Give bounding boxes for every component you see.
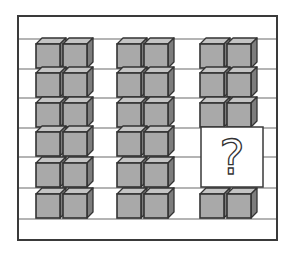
cube	[144, 157, 174, 187]
cube	[144, 126, 174, 156]
cube-pattern-puzzle: ?	[0, 0, 291, 254]
cube	[63, 126, 93, 156]
cube	[36, 97, 66, 127]
cube	[36, 38, 66, 68]
question-mark-icon: ?	[219, 129, 244, 185]
cube	[227, 38, 257, 68]
cube	[36, 67, 66, 97]
cube	[144, 38, 174, 68]
cube	[117, 126, 147, 156]
question-box: ?	[201, 127, 263, 187]
cube	[200, 38, 230, 68]
cube	[117, 97, 147, 127]
cube	[63, 157, 93, 187]
cube	[144, 188, 174, 218]
cube	[36, 157, 66, 187]
cube	[200, 97, 230, 127]
cube	[36, 126, 66, 156]
cube	[63, 97, 93, 127]
cube	[200, 67, 230, 97]
cube	[144, 97, 174, 127]
cube	[227, 97, 257, 127]
cube	[117, 67, 147, 97]
cube	[63, 188, 93, 218]
cube	[200, 188, 230, 218]
cube	[144, 67, 174, 97]
cube	[117, 157, 147, 187]
cube	[117, 188, 147, 218]
cube	[63, 38, 93, 68]
cube	[227, 67, 257, 97]
cube	[117, 38, 147, 68]
cube	[36, 188, 66, 218]
cube	[227, 188, 257, 218]
cube	[63, 67, 93, 97]
